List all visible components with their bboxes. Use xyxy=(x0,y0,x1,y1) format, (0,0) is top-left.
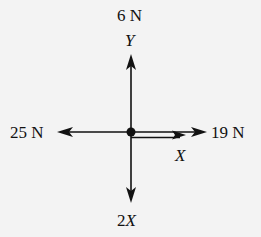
free-body-diagram: 6 N Y 25 N 19 N X 2X xyxy=(0,0,261,237)
down-force-arrow xyxy=(126,132,136,203)
right-force-arrow xyxy=(131,127,207,137)
up-force-arrow xyxy=(126,54,136,132)
y-axis-label: Y xyxy=(125,32,134,49)
right-force-magnitude-label: 19 N xyxy=(211,124,245,141)
left-force-arrow xyxy=(57,127,131,137)
left-force-magnitude-label: 25 N xyxy=(10,124,44,141)
down-force-coefficient: 2 xyxy=(117,211,126,230)
center-point xyxy=(127,128,136,137)
down-force-label: 2X xyxy=(117,212,136,229)
up-force-magnitude-label: 6 N xyxy=(117,7,142,24)
x-axis-label: X xyxy=(175,147,185,164)
down-force-variable: X xyxy=(126,211,136,230)
